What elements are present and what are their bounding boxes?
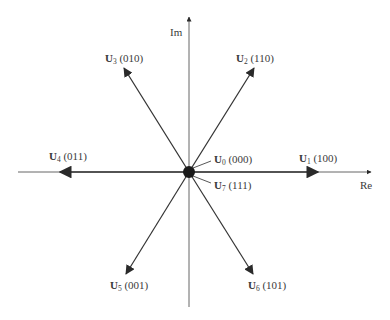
real-axis-label: Re bbox=[360, 180, 372, 191]
imaginary-axis-label: Im bbox=[170, 27, 182, 38]
label-u3: U3 (010) bbox=[105, 53, 143, 66]
origin-dot bbox=[183, 166, 195, 178]
label-u2: U2 (110) bbox=[236, 53, 274, 66]
vector-u5 bbox=[126, 172, 189, 274]
label-u7: U7 (111) bbox=[214, 180, 251, 193]
label-u4: U4 (011) bbox=[49, 151, 87, 164]
vector-u3 bbox=[124, 68, 189, 172]
label-u6: U6 (101) bbox=[248, 280, 286, 293]
label-u1: U1 (100) bbox=[299, 153, 337, 166]
label-u5: U5 (001) bbox=[110, 280, 148, 293]
label-u0: U0 (000) bbox=[214, 154, 252, 167]
